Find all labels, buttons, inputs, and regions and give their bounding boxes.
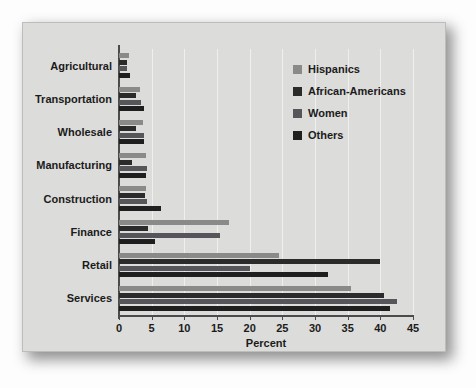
legend-label: African-Americans [308,85,406,97]
category-label: Wholesale [58,126,112,138]
category-label: Services [67,292,112,304]
x-tick-label: 45 [407,322,419,334]
legend-swatch-icon [293,65,302,74]
bar [119,272,328,277]
bar-group: Finance [119,215,413,248]
bar-group: Construction [119,182,413,215]
bar [119,266,250,271]
x-axis-title: Percent [119,337,413,349]
legend-item[interactable]: African-Americans [293,85,453,97]
x-tick [413,315,414,320]
category-label: Transportation [35,93,112,105]
bar [119,120,143,125]
bar [119,186,146,191]
bar [119,220,229,225]
x-tick-label: 40 [374,322,386,334]
chart-panel: 051015202530354045 AgriculturalTransport… [22,22,446,352]
bar [119,139,144,144]
x-tick [217,315,218,320]
bar [119,239,155,244]
bar [119,53,129,58]
category-label: Retail [82,259,112,271]
x-tick-label: 30 [309,322,321,334]
x-tick-label: 0 [116,322,122,334]
x-tick [152,315,153,320]
bar [119,126,136,131]
legend-item[interactable]: Others [293,129,453,141]
bar [119,293,384,298]
x-tick-label: 10 [178,322,190,334]
x-axis-line [118,315,414,317]
legend-label: Hispanics [308,63,360,75]
x-tick-label: 5 [149,322,155,334]
bar [119,226,148,231]
category-label: Agricultural [50,60,112,72]
legend-label: Women [308,107,348,119]
x-tick [315,315,316,320]
legend-swatch-icon [293,109,302,118]
bar [119,199,147,204]
bar [119,166,147,171]
x-tick [380,315,381,320]
bar [119,286,351,291]
legend-item[interactable]: Women [293,107,453,119]
bar [119,66,127,71]
x-tick-label: 25 [276,322,288,334]
x-tick [184,315,185,320]
bar [119,259,380,264]
chart-figure: 051015202530354045 AgriculturalTransport… [0,0,476,388]
x-tick [119,315,120,320]
category-label: Finance [70,226,112,238]
legend-label: Others [308,129,343,141]
bar [119,299,397,304]
bar [119,306,390,311]
x-tick [250,315,251,320]
bar [119,253,279,258]
legend-swatch-icon [293,131,302,140]
bar [119,173,146,178]
bar [119,160,132,165]
chart-legend: HispanicsAfrican-AmericansWomenOthers [293,63,453,151]
x-tick [348,315,349,320]
bar [119,133,144,138]
bar [119,206,161,211]
category-label: Construction [44,193,112,205]
x-tick [282,315,283,320]
category-label: Manufacturing [36,159,112,171]
bar-group: Retail [119,249,413,282]
legend-item[interactable]: Hispanics [293,63,453,75]
bar [119,193,145,198]
bar [119,60,127,65]
x-tick-label: 20 [244,322,256,334]
bar-group: Manufacturing [119,149,413,182]
bar [119,233,220,238]
bar [119,153,146,158]
x-tick-label: 15 [211,322,223,334]
bar-group: Services [119,282,413,315]
bar [119,73,130,78]
x-tick-label: 35 [342,322,354,334]
bar [119,100,141,105]
bar [119,106,144,111]
bar [119,87,140,92]
legend-swatch-icon [293,87,302,96]
bar [119,93,136,98]
